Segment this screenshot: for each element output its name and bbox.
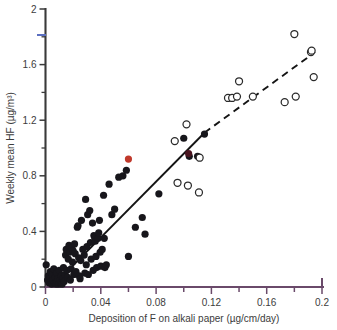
data-point bbox=[171, 138, 178, 145]
x-tick-label: 0.08 bbox=[146, 297, 166, 308]
data-point bbox=[82, 196, 89, 203]
data-point bbox=[183, 121, 190, 128]
y-tick-label: 2 bbox=[31, 4, 37, 15]
data-point bbox=[101, 235, 108, 242]
data-point bbox=[201, 131, 208, 138]
data-point bbox=[132, 224, 139, 231]
data-point bbox=[71, 240, 78, 247]
data-point bbox=[180, 135, 187, 142]
data-point bbox=[174, 179, 181, 186]
data-point bbox=[81, 251, 88, 258]
data-point bbox=[308, 47, 315, 54]
x-tick-label: 0.2 bbox=[315, 297, 329, 308]
x-tick-label: 0 bbox=[43, 297, 49, 308]
data-point bbox=[233, 93, 240, 100]
data-point bbox=[184, 182, 191, 189]
data-point bbox=[76, 275, 83, 282]
x-tick-label: 0.12 bbox=[202, 297, 222, 308]
series-highlight-red bbox=[125, 156, 132, 163]
data-point bbox=[100, 192, 107, 199]
data-point bbox=[89, 219, 96, 226]
data-point bbox=[69, 258, 76, 265]
y-axis-title: Weekly mean HF (µg/m³) bbox=[5, 92, 16, 204]
data-point bbox=[125, 253, 132, 260]
y-tick-label: 0.8 bbox=[23, 170, 37, 181]
data-point bbox=[103, 261, 110, 268]
data-point bbox=[281, 99, 288, 106]
data-point bbox=[95, 229, 102, 236]
data-point bbox=[155, 190, 162, 197]
x-axis-tick-labels: 00.040.080.120.160.2 bbox=[43, 297, 330, 308]
y-tick-label: 1.6 bbox=[23, 59, 37, 70]
data-point bbox=[83, 261, 90, 268]
x-tick-label: 0.16 bbox=[257, 297, 277, 308]
data-point bbox=[291, 31, 298, 38]
data-point bbox=[292, 93, 299, 100]
data-point bbox=[99, 246, 106, 253]
scatter-plot: 00.40.81.21.62 00.040.080.120.160.2 Depo… bbox=[0, 0, 337, 330]
data-point bbox=[310, 74, 317, 81]
series-highlight-maroon bbox=[185, 150, 192, 157]
data-point bbox=[236, 78, 243, 85]
y-tick-label: 1.2 bbox=[23, 115, 37, 126]
data-point bbox=[185, 150, 192, 157]
series-open-circles bbox=[171, 31, 317, 196]
x-tick-label: 0.04 bbox=[91, 297, 111, 308]
x-axis-title: Deposition of F on alkali paper (µg/cm/d… bbox=[89, 313, 280, 324]
data-point bbox=[141, 231, 148, 238]
data-point bbox=[195, 189, 202, 196]
data-point bbox=[111, 206, 118, 213]
data-point bbox=[78, 217, 85, 224]
data-point bbox=[96, 217, 103, 224]
data-point bbox=[43, 261, 50, 268]
data-point bbox=[105, 181, 112, 188]
data-point bbox=[196, 154, 203, 161]
data-point bbox=[86, 207, 93, 214]
y-axis-tick-labels: 00.40.81.21.62 bbox=[23, 4, 37, 293]
y-tick-label: 0.4 bbox=[23, 226, 37, 237]
data-point bbox=[249, 93, 256, 100]
data-point bbox=[139, 214, 146, 221]
chart-figure: 00.40.81.21.62 00.040.080.120.160.2 Depo… bbox=[0, 0, 337, 330]
data-point bbox=[123, 167, 130, 174]
regression-line-dashed bbox=[204, 52, 315, 133]
data-points-group bbox=[43, 31, 318, 288]
y-tick-label: 0 bbox=[31, 282, 37, 293]
x-axis-ticks bbox=[46, 287, 323, 294]
data-point bbox=[125, 156, 132, 163]
